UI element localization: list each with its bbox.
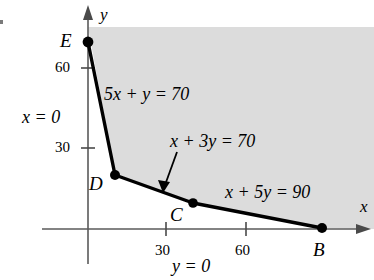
x-axis-label: x — [360, 198, 368, 215]
constraint-label-x-plus-3y: x + 3y = 70 — [170, 132, 255, 150]
y-axis-arrowhead — [83, 5, 93, 20]
constraint-label-x-equals-0: x = 0 — [22, 108, 60, 126]
y-tick-label-60: 60 — [55, 60, 70, 75]
vertex-label-B: B — [313, 240, 325, 259]
x-tick-label-60: 60 — [235, 243, 250, 258]
constraint-label-5x-plus-y: 5x + y = 70 — [104, 85, 189, 103]
x-tick-label-30: 30 — [155, 243, 170, 258]
y-axis-label: y — [100, 6, 108, 23]
vertex-point-D — [110, 170, 120, 180]
vertex-label-D: D — [89, 174, 103, 193]
vertex-point-E — [83, 37, 94, 48]
vertex-point-C — [188, 198, 198, 208]
constraint-label-y-equals-0: y = 0 — [172, 257, 210, 275]
constraint-label-x-plus-5y: x + 5y = 90 — [225, 183, 310, 201]
vertex-label-C: C — [170, 205, 183, 224]
y-tick-label-30: 30 — [55, 140, 70, 155]
vertex-point-B — [317, 223, 327, 233]
figure-canvas: y x 60 30 30 60 E D C B 5x + y = 70 x + … — [0, 0, 374, 280]
vertex-label-E: E — [60, 31, 72, 50]
